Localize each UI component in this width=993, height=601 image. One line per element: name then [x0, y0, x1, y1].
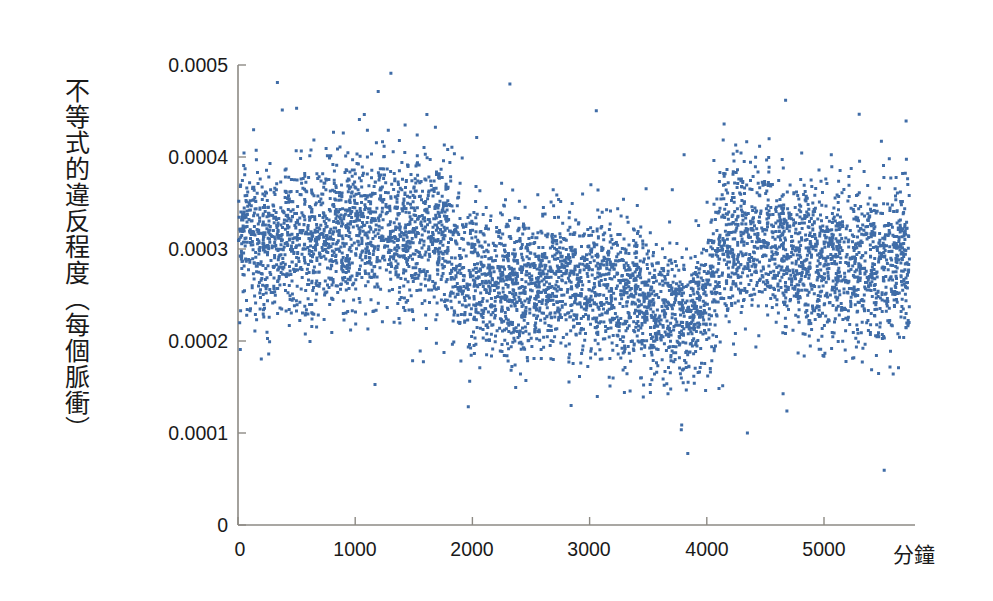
plot-area [0, 0, 993, 601]
data-points-layer [237, 72, 911, 472]
scatter-chart-figure: 不等式的違反程度（每個脈衝） 0 0.0001 0.0002 0.0003 0.… [0, 0, 993, 601]
scatter-points [237, 72, 911, 472]
